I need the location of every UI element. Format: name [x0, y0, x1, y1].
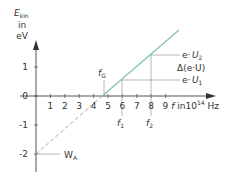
delta-eu-label: Δ(e·U) [177, 63, 205, 73]
ekin-line [102, 30, 179, 96]
f2-label: f2 [146, 118, 153, 129]
x-axis-arrow-icon [206, 93, 216, 99]
eu2-u: U2 [192, 50, 203, 61]
x-axis-label: 9 f in1014 Hz [163, 99, 220, 111]
x-tick-label: 1 [48, 101, 54, 111]
x-tick-label: 3 [76, 101, 82, 111]
x-tick-label: 4 [91, 101, 97, 111]
x-tick-label: 5 [105, 101, 111, 111]
f1-label: f1 [117, 118, 124, 129]
x-tick-label: 7 [134, 101, 140, 111]
wa-label: WA [64, 150, 78, 161]
plot-lines [36, 30, 180, 154]
y-tick-label: -2 [19, 149, 28, 159]
eu1-label: e· [182, 75, 190, 85]
y-tick-label: -1 [19, 120, 28, 130]
x-tick-label: 6 [120, 101, 126, 111]
y-tick-label: 0 [22, 91, 28, 101]
svg-text:in: in [18, 20, 26, 30]
y-tick-label: 1 [22, 62, 28, 72]
photoelectric-chart: 123456789 f in1014 Hz10-1-2EkinineVfGf1f… [0, 0, 227, 190]
fg-label: fG [98, 68, 106, 79]
y-axis-arrow-icon [33, 40, 39, 50]
y-axis-label: Ekin [14, 8, 29, 19]
x-tick-label: 8 [148, 101, 154, 111]
x-tick-label: 2 [62, 101, 68, 111]
eu2-label: e· [182, 50, 190, 60]
svg-text:eV: eV [16, 31, 29, 41]
eu1-u: U1 [192, 75, 203, 86]
